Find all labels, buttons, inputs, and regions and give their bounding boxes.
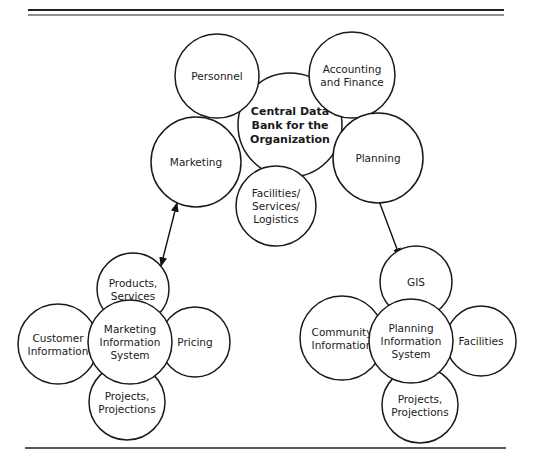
double-arrow-marketing-to-products-services	[161, 203, 177, 266]
organization-data-bank-diagram: Central DataBank for theOrganizationPers…	[0, 0, 538, 465]
node-label-line: Marketing	[170, 156, 222, 168]
planning-cluster: GISCommunityInformationFacilitiesProject…	[300, 246, 516, 443]
node-label-line: Personnel	[191, 70, 242, 82]
node-label-line: System	[110, 349, 149, 361]
node-facilities: Facilities	[446, 306, 516, 376]
node-label-line: and Finance	[320, 76, 383, 88]
node-label-line: Projects,	[398, 393, 443, 405]
node-label-line: Information	[28, 345, 89, 357]
node-label-line: Information	[312, 339, 373, 351]
node-personnel: Personnel	[175, 34, 259, 118]
node-label-line: Central Data	[251, 105, 329, 118]
node-label-line: Pricing	[177, 336, 212, 348]
central-cluster: Central DataBank for theOrganizationPers…	[151, 32, 423, 246]
node-planning: Planning	[333, 113, 423, 203]
node-label-line: Bank for the	[252, 119, 329, 132]
node-label-line: Projections	[391, 406, 448, 418]
node-label-line: Information	[381, 335, 442, 347]
node-label-line: Projections	[98, 403, 155, 415]
node-facilities-services-logistics: Facilities/Services/Logistics	[236, 166, 316, 246]
node-label-line: System	[391, 348, 430, 360]
node-label-line: Planning	[388, 322, 433, 334]
node-label-line: Facilities/	[252, 187, 301, 199]
node-label-line: Customer	[32, 332, 84, 344]
node-label-line: Logistics	[253, 213, 298, 225]
node-accounting: Accountingand Finance	[309, 32, 395, 118]
node-planning-information-system: PlanningInformationSystem	[369, 299, 453, 383]
node-label-line: Planning	[355, 152, 400, 164]
node-marketing: Marketing	[151, 117, 241, 207]
node-label-line: Organization	[250, 133, 330, 146]
node-label-line: Information	[100, 336, 161, 348]
node-customer-information: CustomerInformation	[18, 304, 98, 384]
node-label-line: Facilities	[459, 335, 504, 347]
node-label-line: Community	[312, 326, 373, 338]
node-label-line: Services/	[252, 200, 300, 212]
node-label-line: Products,	[109, 277, 158, 289]
node-label-line: Accounting	[323, 63, 382, 75]
node-label-line: Projects,	[105, 390, 150, 402]
node-label-line: Marketing	[104, 323, 156, 335]
node-label-line: GIS	[407, 276, 425, 288]
marketing-cluster: Products,ServicesCustomerInformationPric…	[18, 253, 230, 440]
node-marketing-information-system: MarketingInformationSystem	[88, 300, 172, 384]
